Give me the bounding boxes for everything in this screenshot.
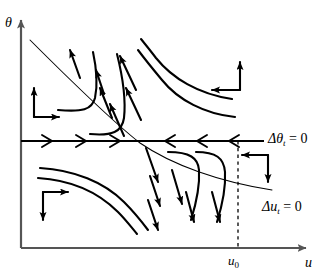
delta-theta-subscript: t bbox=[283, 138, 286, 148]
upper-trajectories bbox=[58, 39, 235, 134]
phase-portrait-figure: θ u u0 Δθt = 0 Δut = 0 bbox=[0, 0, 326, 277]
delta-u-symbol: Δu bbox=[262, 199, 277, 214]
delta-u-nullcline-curve bbox=[30, 40, 272, 190]
delta-theta-nullcline-label: Δθt = 0 bbox=[268, 132, 308, 148]
direction-cluster-upper-right bbox=[212, 62, 240, 90]
delta-u-subscript: t bbox=[277, 206, 280, 216]
trajectory-lower-1 bbox=[38, 178, 137, 234]
direction-cluster-upper-left bbox=[34, 88, 59, 117]
delta-theta-symbol: Δθ bbox=[268, 131, 283, 146]
trajectory-upper-1 bbox=[58, 52, 96, 111]
upper-arrow-1 bbox=[70, 50, 80, 78]
upper-flow-arrows bbox=[70, 50, 141, 136]
lower-arrow-5 bbox=[186, 192, 194, 222]
u0-subscript: 0 bbox=[235, 260, 240, 270]
lower-flow-arrows bbox=[146, 148, 220, 230]
trajectory-lower-2 bbox=[40, 168, 148, 230]
direction-cluster-lower-left bbox=[43, 192, 68, 220]
direction-cluster-lower-right bbox=[242, 155, 268, 182]
trajectory-lower-4 bbox=[196, 152, 225, 222]
lower-arrow-3 bbox=[148, 200, 158, 230]
trajectory-lower-3 bbox=[168, 152, 199, 220]
theta-axis-label: θ bbox=[5, 16, 12, 30]
u0-tick-label: u0 bbox=[228, 254, 239, 270]
lower-arrow-4 bbox=[172, 170, 182, 204]
delta-u-equals: = 0 bbox=[283, 199, 301, 214]
delta-u-nullcline-label: Δut = 0 bbox=[262, 200, 302, 216]
u-axis-label: u bbox=[305, 256, 312, 270]
upper-arrow-6 bbox=[126, 88, 141, 120]
lower-arrow-6 bbox=[212, 192, 220, 222]
delta-theta-equals: = 0 bbox=[289, 131, 307, 146]
